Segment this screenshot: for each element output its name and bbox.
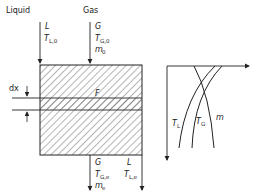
liquid-temp-sub: L,0 (49, 38, 58, 44)
gas-mass-sub: 0 (102, 49, 106, 55)
curve-label-m: m (216, 113, 224, 122)
gas-out-symbol: G (95, 158, 101, 167)
area-label: F (95, 89, 100, 98)
curve-label-tl-sub: L (177, 123, 181, 129)
gas-label: Gas (83, 6, 98, 15)
gas-out-temp-sub: G,e (100, 174, 110, 180)
liquid-symbol: L (45, 22, 49, 31)
gas-inlet: Gas G T G,0 m 0 (83, 6, 110, 63)
gas-symbol: G (95, 22, 101, 31)
differential-element (41, 99, 142, 110)
gas-out-mass-sub: e (102, 185, 106, 191)
liquid-out-symbol: L (127, 158, 131, 167)
column: F dx (9, 65, 142, 155)
liquid-inlet: Liquid L T L,0 (6, 6, 58, 63)
dx-label: dx (9, 84, 19, 93)
gas-outlet: G T G,e m e (90, 155, 110, 191)
liquid-outlet: L T L,e (124, 155, 142, 190)
profile-plot: T L T G m (167, 66, 249, 160)
diagram-canvas: Liquid L T L,0 Gas G T G,0 m 0 F dx G T … (0, 0, 259, 196)
curve-liquid-temperature (179, 66, 215, 148)
liquid-out-temp-sub: L,e (129, 174, 138, 180)
curve-label-tg-sub: G (201, 121, 205, 127)
curve-gas-temperature (192, 66, 222, 148)
gas-temp-sub: G,0 (100, 38, 110, 44)
liquid-label: Liquid (6, 6, 30, 15)
